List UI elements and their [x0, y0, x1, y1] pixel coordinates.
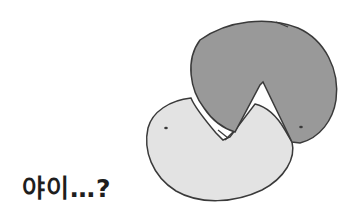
eye-dot: [299, 126, 303, 128]
caption-text: 야이…?: [22, 168, 112, 204]
eye-dot: [164, 127, 168, 129]
